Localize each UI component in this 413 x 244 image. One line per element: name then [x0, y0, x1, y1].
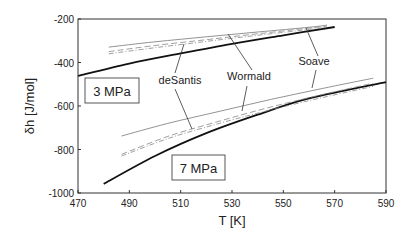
curve-3-mpa-desantis [109, 27, 327, 54]
curves [78, 25, 386, 184]
leader-line [312, 70, 316, 88]
leader-line [228, 34, 252, 70]
curve-3-mpa-reference [78, 27, 335, 76]
y-axis-ticks: -200-400-600-800-1000 [48, 14, 81, 199]
y-tick-label: -800 [54, 145, 74, 156]
x-tick-label: 590 [378, 198, 395, 209]
pressure-label-boxes: 3 MPa7 MPa [85, 78, 225, 180]
leader-line [242, 86, 247, 111]
pressure-label: 3 MPa [93, 84, 131, 99]
curve-3-mpa-soave [109, 26, 327, 51]
model-label-soave: Soave [298, 55, 329, 67]
x-tick-label: 470 [70, 198, 87, 209]
model-label-desantis: deSantis [159, 74, 202, 86]
enthalpy-departure-chart: -200-400-600-800-1000 470490510530550570… [0, 0, 413, 244]
curve-7-mpa-wormald [122, 78, 374, 136]
x-tick-label: 490 [121, 198, 138, 209]
leader-line [306, 28, 318, 56]
x-axis-label: T [K] [218, 213, 245, 228]
curve-3-mpa-wormald [109, 25, 327, 47]
x-tick-label: 570 [326, 198, 343, 209]
y-tick-label: -600 [54, 101, 74, 112]
x-tick-label: 550 [275, 198, 292, 209]
leader-line [175, 44, 184, 73]
leader-line [175, 89, 192, 129]
y-tick-label: -400 [54, 58, 74, 69]
x-tick-label: 530 [224, 198, 241, 209]
y-tick-label: -200 [54, 14, 74, 25]
model-label-wormald: Wormald [227, 70, 271, 82]
y-axis-label: δh [J/mol] [22, 78, 37, 134]
curve-7-mpa-desantis [122, 86, 374, 156]
model-labels: deSantisWormaldSoave [159, 55, 330, 86]
pressure-label: 7 MPa [180, 161, 218, 176]
x-tick-label: 510 [172, 198, 189, 209]
